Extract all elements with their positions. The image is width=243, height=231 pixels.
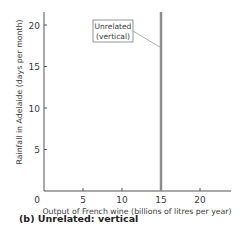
x-tick-label: 5 <box>80 195 86 205</box>
annotation-text: Unrelated <box>95 22 132 31</box>
y-tick-label: 15 <box>29 62 40 72</box>
chart-caption: (b) Unrelated: vertical <box>19 213 138 224</box>
annotation: Unrelated(vertical) <box>93 20 161 48</box>
chart: 051015205101520Output of French wine (bi… <box>0 0 243 231</box>
axes: 051015205101520Output of French wine (bi… <box>15 12 232 216</box>
y-tick-label: 5 <box>34 145 40 155</box>
y-tick-label: 10 <box>29 104 41 114</box>
x-tick-label: 15 <box>155 195 166 205</box>
y-tick-label: 20 <box>29 21 41 31</box>
y-axis-label: Rainfall in Adelaide (days per month) <box>15 19 24 164</box>
annotation-leader <box>133 31 161 48</box>
x-tick-label: 10 <box>116 195 128 205</box>
x-tick-label: 20 <box>194 195 206 205</box>
annotation-text: (vertical) <box>96 32 130 41</box>
x-tick-label: 0 <box>34 195 40 205</box>
